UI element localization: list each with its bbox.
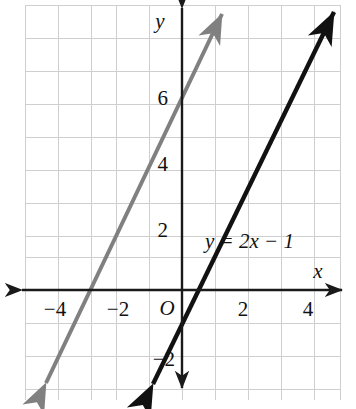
origin-label: O	[159, 296, 174, 320]
graph-figure: y x O −4 −2 2 4 6 4 2 −2 y = 2x − 1	[0, 0, 356, 409]
equation-label: y = 2x − 1	[203, 229, 294, 253]
y-tick-label-4: 4	[158, 152, 169, 176]
y-tick-label--2: −2	[153, 347, 175, 371]
y-tick-label-2: 2	[158, 218, 169, 242]
figure-background	[0, 0, 356, 409]
x-tick-label--4: −4	[44, 297, 67, 321]
x-tick-label--2: −2	[107, 297, 129, 321]
x-tick-label-2: 2	[238, 297, 249, 321]
coordinate-plane-svg: y x O −4 −2 2 4 6 4 2 −2 y = 2x − 1	[0, 0, 356, 409]
y-tick-label-6: 6	[158, 86, 169, 110]
y-axis-label: y	[153, 9, 165, 33]
x-axis-label: x	[312, 259, 323, 283]
x-tick-label-4: 4	[303, 297, 314, 321]
